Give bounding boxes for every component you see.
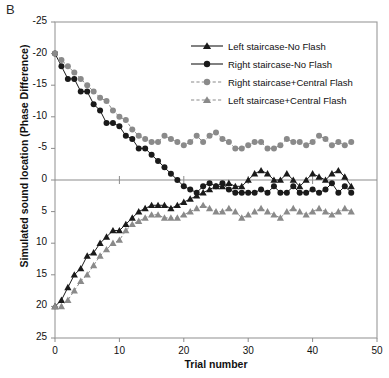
x-tick-label: 20 bbox=[169, 345, 199, 356]
data-point bbox=[174, 177, 180, 183]
data-point bbox=[206, 186, 213, 192]
data-point bbox=[348, 183, 355, 189]
data-point bbox=[155, 139, 161, 145]
data-point bbox=[297, 190, 303, 196]
data-point bbox=[84, 89, 90, 95]
data-point bbox=[174, 139, 180, 145]
data-point bbox=[71, 287, 78, 293]
data-point bbox=[90, 262, 97, 268]
data-point bbox=[187, 195, 194, 201]
x-tick-label: 40 bbox=[298, 345, 328, 356]
data-point bbox=[116, 123, 122, 129]
data-point bbox=[212, 208, 219, 214]
data-point bbox=[239, 145, 245, 151]
data-point bbox=[52, 51, 58, 57]
legend-point bbox=[204, 61, 210, 67]
legend-point bbox=[204, 79, 210, 85]
data-point bbox=[181, 142, 187, 148]
data-point bbox=[58, 63, 64, 69]
y-tick-label: 10 bbox=[0, 236, 47, 247]
data-point bbox=[252, 139, 258, 145]
y-tick-label: -10 bbox=[0, 110, 47, 121]
y-tick-label: 20 bbox=[0, 299, 47, 310]
data-point bbox=[277, 142, 283, 148]
data-point bbox=[78, 89, 84, 95]
data-point bbox=[239, 190, 245, 196]
data-point bbox=[149, 152, 155, 158]
data-point bbox=[264, 208, 271, 214]
data-point bbox=[309, 170, 316, 176]
data-point bbox=[303, 142, 309, 148]
data-point bbox=[219, 136, 225, 142]
data-point bbox=[303, 190, 309, 196]
y-tick-label: -5 bbox=[0, 141, 47, 152]
data-point bbox=[316, 190, 322, 196]
data-point bbox=[116, 114, 122, 120]
legend-label: Left staircase-No Flash bbox=[224, 41, 326, 52]
legend-label: Right staircase-No Flash bbox=[224, 59, 332, 70]
y-tick-label: 25 bbox=[0, 331, 47, 342]
data-point bbox=[257, 167, 264, 173]
data-point bbox=[264, 170, 271, 176]
data-point bbox=[174, 214, 181, 220]
data-point bbox=[187, 186, 193, 192]
data-point bbox=[65, 76, 71, 82]
data-point bbox=[348, 139, 354, 145]
data-point bbox=[142, 145, 148, 151]
data-point bbox=[225, 205, 232, 211]
data-point bbox=[335, 167, 342, 173]
data-point bbox=[97, 107, 103, 113]
legend-item: Left staircase-No Flash bbox=[190, 38, 353, 54]
data-point bbox=[328, 170, 335, 176]
data-point bbox=[283, 208, 290, 214]
data-point bbox=[167, 214, 174, 220]
data-point bbox=[290, 183, 296, 189]
data-point bbox=[251, 208, 258, 214]
data-point bbox=[167, 205, 174, 211]
data-point bbox=[315, 173, 322, 179]
data-point bbox=[303, 211, 310, 217]
data-point bbox=[193, 205, 200, 211]
data-point bbox=[290, 205, 297, 211]
data-point bbox=[297, 139, 303, 145]
data-point bbox=[84, 271, 91, 277]
data-point bbox=[168, 136, 174, 142]
data-point bbox=[270, 211, 277, 217]
data-point bbox=[257, 205, 264, 211]
data-point bbox=[90, 249, 97, 255]
data-point bbox=[77, 265, 84, 271]
data-point bbox=[206, 205, 213, 211]
data-point bbox=[161, 164, 167, 170]
data-point bbox=[174, 202, 181, 208]
data-point bbox=[104, 120, 110, 126]
data-point bbox=[309, 208, 316, 214]
data-point bbox=[135, 208, 142, 214]
data-point bbox=[348, 190, 354, 196]
data-point bbox=[129, 136, 135, 142]
data-point bbox=[155, 158, 161, 164]
data-point bbox=[91, 101, 97, 107]
data-point bbox=[65, 63, 71, 69]
data-point bbox=[161, 133, 167, 139]
data-point bbox=[245, 142, 251, 148]
data-point bbox=[207, 180, 213, 186]
data-point bbox=[265, 190, 271, 196]
data-point bbox=[71, 76, 77, 82]
data-point bbox=[348, 208, 355, 214]
chart-legend: Left staircase-No FlashRight staircase-N… bbox=[190, 38, 353, 110]
legend-marker-circle-icon bbox=[190, 57, 224, 71]
data-point bbox=[91, 89, 97, 95]
data-point bbox=[251, 170, 258, 176]
y-tick-label: 15 bbox=[0, 268, 47, 279]
data-point bbox=[123, 133, 129, 139]
data-point bbox=[136, 133, 142, 139]
data-point bbox=[226, 186, 232, 192]
data-point bbox=[290, 139, 296, 145]
data-point bbox=[96, 252, 103, 258]
data-point bbox=[341, 205, 348, 211]
data-point bbox=[328, 211, 335, 217]
data-point bbox=[245, 211, 252, 217]
data-point bbox=[110, 120, 116, 126]
data-point bbox=[258, 139, 264, 145]
data-point bbox=[245, 190, 251, 196]
